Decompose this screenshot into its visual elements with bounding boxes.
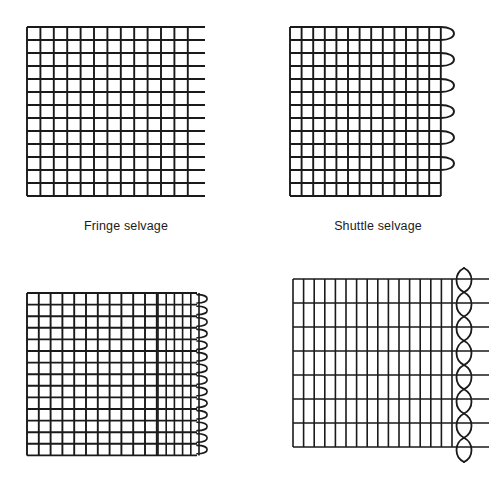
weft-return-loop — [441, 27, 454, 40]
weft-return-loop — [441, 131, 454, 144]
weft-return-loop — [441, 79, 454, 92]
weft-return-loop — [441, 53, 454, 66]
weft-return-loop — [441, 105, 454, 118]
leno-selvage-diagram — [252, 252, 504, 504]
fringe-selvage-diagram — [0, 0, 252, 252]
panel-leno-selvage: Leno selvage — [252, 252, 504, 504]
weft-return-loop — [441, 157, 454, 170]
panel-shuttle-selvage: Shuttle selvage — [252, 0, 504, 252]
caption-shuttle-selvage: Shuttle selvage — [252, 219, 504, 233]
selvage-figure: Fringe selvage Shuttle selvage Tucked-in… — [0, 0, 504, 504]
panel-fringe-selvage: Fringe selvage — [0, 0, 252, 252]
tucked-in-selvage-diagram — [0, 252, 252, 504]
caption-fringe-selvage: Fringe selvage — [0, 219, 252, 233]
shuttle-selvage-diagram — [252, 0, 504, 252]
panel-tucked-in-selvage: Tucked-in selvage — [0, 252, 252, 504]
